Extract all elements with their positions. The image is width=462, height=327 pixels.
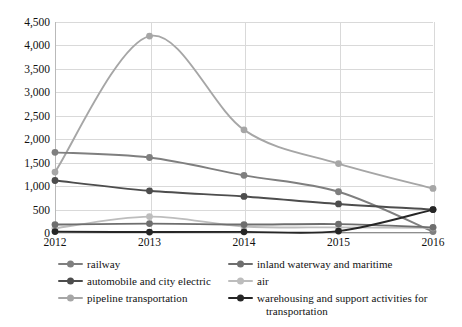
data-point-marker [430, 224, 437, 231]
x-axis-tick-label: 2013 [138, 236, 161, 248]
series-layer [55, 22, 433, 233]
legend-label-continuation: transportation [257, 305, 456, 318]
data-point-marker [241, 228, 248, 235]
data-point-marker [430, 206, 437, 213]
legend-label: air [257, 275, 456, 288]
gridline-vertical [434, 22, 435, 232]
data-point-marker [335, 201, 342, 208]
legend-marker-icon [58, 292, 83, 305]
legend-label: pipeline transportation [87, 292, 230, 305]
y-axis-tick-label: 1,500 [24, 157, 50, 169]
data-point-marker [241, 221, 248, 228]
data-point-marker [335, 188, 342, 195]
y-axis-tick-label: 2,500 [24, 110, 50, 122]
data-point-marker [52, 221, 59, 228]
legend-label: automobile and city electric [87, 275, 230, 288]
legend-item[interactable]: air [228, 275, 456, 288]
y-axis-tick-label: 3,500 [24, 63, 50, 75]
data-point-marker [146, 220, 153, 227]
y-axis-tick-label: 2,000 [24, 133, 50, 145]
chart-legend: railwayautomobile and city electricpipel… [0, 258, 462, 327]
legend-item[interactable]: pipeline transportation [58, 292, 230, 305]
data-point-marker [146, 154, 153, 161]
legend-dot-swatch [67, 295, 74, 302]
data-point-marker [146, 229, 153, 236]
data-point-marker [146, 187, 153, 194]
legend-marker-icon [58, 258, 83, 271]
legend-dot-swatch [67, 278, 74, 285]
plot-wrapper: 05001,0001,5002,0002,5003,0003,5004,0004… [0, 0, 462, 250]
legend-dot-swatch [237, 261, 244, 268]
data-point-marker [52, 149, 59, 156]
legend-item[interactable]: inland waterway and maritime [228, 258, 456, 271]
legend-marker-icon [58, 275, 83, 288]
legend-column-right: inland waterway and maritimeairwarehousi… [228, 258, 456, 322]
data-point-marker [52, 228, 59, 235]
data-point-marker [335, 160, 342, 167]
data-point-marker [52, 177, 59, 184]
data-point-marker [335, 228, 342, 235]
data-point-marker [430, 185, 437, 192]
data-point-marker [241, 172, 248, 179]
legend-item[interactable]: warehousing and support activities fortr… [228, 292, 456, 317]
x-axis-tick-label: 2016 [422, 236, 445, 248]
legend-marker-icon [228, 292, 253, 305]
data-point-marker [146, 213, 153, 220]
y-axis-tick-label: 3,000 [24, 86, 50, 98]
legend-dot-swatch [237, 278, 244, 285]
legend-label: warehousing and support activities fortr… [257, 292, 456, 317]
series-pipeline-transportation [52, 33, 437, 192]
y-axis-tick-label: 4,500 [24, 16, 50, 28]
y-axis-tick-labels: 05001,0001,5002,0002,5003,0003,5004,0004… [0, 22, 50, 233]
data-point-marker [241, 126, 248, 133]
legend-label: railway [87, 258, 230, 271]
legend-label: inland waterway and maritime [257, 258, 456, 271]
data-point-marker [241, 193, 248, 200]
legend-item[interactable]: railway [58, 258, 230, 271]
y-axis-tick-label: 4,000 [24, 39, 50, 51]
y-axis-tick-label: 1,000 [24, 180, 50, 192]
line-chart: 05001,0001,5002,0002,5003,0003,5004,0004… [0, 0, 462, 327]
data-point-marker [52, 169, 59, 176]
legend-marker-icon [228, 275, 253, 288]
legend-dot-swatch [67, 261, 74, 268]
x-axis-tick-label: 2015 [327, 236, 350, 248]
legend-item[interactable]: automobile and city electric [58, 275, 230, 288]
legend-marker-icon [228, 258, 253, 271]
series-line [55, 36, 433, 189]
data-point-marker [146, 33, 153, 40]
x-axis-tick-label: 2014 [233, 236, 256, 248]
y-axis-tick-label: 500 [33, 204, 50, 216]
x-axis-tick-label: 2012 [44, 236, 67, 248]
legend-column-left: railwayautomobile and city electricpipel… [58, 258, 230, 309]
data-point-marker [335, 221, 342, 228]
legend-dot-swatch [237, 295, 244, 302]
